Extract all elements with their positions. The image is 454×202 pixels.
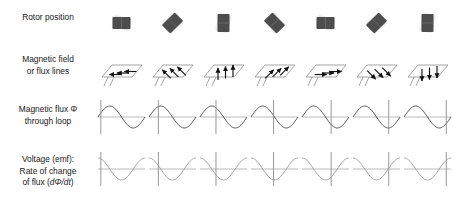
row-label-rotor-position: Rotor position (0, 12, 96, 24)
flux-waveform-cell (300, 92, 351, 144)
flux-waveform-cell (351, 92, 402, 144)
row-voltage-emf: Voltage (emf):Rate of changeof flux (dΦ/… (0, 144, 454, 202)
flux-waveform-cell (198, 92, 249, 144)
flux-waveform-cell (249, 92, 300, 144)
emf-waveform-cell (198, 144, 249, 202)
field-cell (300, 45, 351, 92)
rotor-magnet (113, 17, 131, 29)
field-arrows (315, 72, 342, 75)
conducting-loop (204, 65, 244, 86)
conducting-loop (408, 65, 448, 86)
flux-waveform-cell (147, 92, 198, 144)
rotor-magnet (422, 14, 434, 32)
rotor-magnet (218, 14, 230, 32)
rotor-cell (96, 0, 147, 45)
emf-waveform-cell (147, 144, 198, 202)
rotor-cell (402, 0, 453, 45)
row-magnetic-field: Magnetic fieldor flux lines (0, 45, 454, 92)
row-label-magnetic-flux: Magnetic flux Φthrough loop (0, 104, 96, 127)
field-arrows (109, 72, 136, 75)
emf-waveform-cell (249, 144, 300, 202)
emf-waveform-cell (300, 144, 351, 202)
field-cell (351, 45, 402, 92)
field-cell (249, 45, 300, 92)
emf-waveform-cell (351, 144, 402, 202)
conducting-loop (102, 65, 142, 86)
field-cell (96, 45, 147, 92)
rotor-magnet (264, 12, 285, 33)
rotor-cell (300, 0, 351, 45)
rotor-cell (147, 0, 198, 45)
conducting-loop (357, 65, 397, 86)
row-label-voltage-emf: Voltage (emf):Rate of changeof flux (dΦ/… (0, 154, 96, 189)
conducting-loop (255, 65, 295, 86)
rotor-cells (96, 0, 454, 45)
emf-cells (96, 144, 454, 202)
emf-waveform-cell (402, 144, 453, 202)
field-cells (96, 45, 454, 92)
rotor-magnet (317, 17, 335, 29)
row-rotor-position: Rotor position (0, 0, 454, 45)
dphi-dt-symbol: dΦ/dt (50, 177, 71, 187)
rotor-magnet (366, 12, 387, 33)
row-magnetic-flux: Magnetic flux Φthrough loop (0, 92, 454, 144)
field-arrows (422, 66, 437, 81)
emf-waveform-cell (96, 144, 147, 202)
field-cell (198, 45, 249, 92)
rotor-magnet (162, 12, 183, 33)
flux-cells (96, 92, 454, 144)
field-cell (147, 45, 198, 92)
field-cell (402, 45, 453, 92)
row-label-magnetic-field: Magnetic fieldor flux lines (0, 54, 96, 77)
generator-phase-diagram: Rotor position Magnetic fieldor flux lin… (0, 0, 454, 202)
rotor-cell (351, 0, 402, 45)
conducting-loop (306, 65, 346, 86)
conducting-loop (153, 65, 193, 86)
field-arrows (218, 65, 233, 80)
rotor-cell (249, 0, 300, 45)
flux-waveform-cell (96, 92, 147, 144)
flux-waveform-cell (402, 92, 453, 144)
rotor-cell (198, 0, 249, 45)
